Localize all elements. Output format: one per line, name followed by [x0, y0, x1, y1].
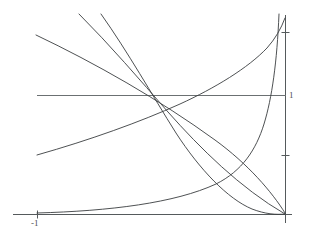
- y-tick-label-one: 1: [289, 91, 294, 100]
- plot-canvas: [0, 0, 310, 241]
- plot-figure: 1 -1: [0, 0, 310, 241]
- x-tick-label-negative-one: -1: [31, 219, 39, 228]
- curve-power-two: [79, 14, 285, 214]
- curve-shallow-concave: [37, 18, 285, 155]
- curve-power-three: [101, 14, 285, 214]
- curve-straight-descending: [36, 35, 285, 213]
